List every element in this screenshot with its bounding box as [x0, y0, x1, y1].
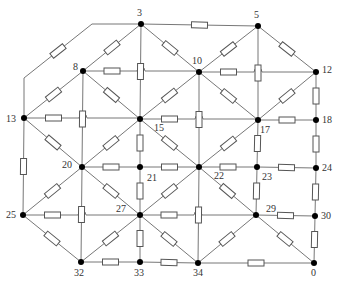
resistor-15-20 [103, 136, 119, 151]
resistor-27-29 [161, 212, 177, 218]
node-34 [195, 260, 201, 266]
node-label-34: 34 [193, 267, 203, 278]
resistor-13-15 [46, 115, 62, 121]
resistor-30-0 [311, 231, 317, 247]
node-label-33: 33 [134, 267, 144, 278]
resistor-21-27 [137, 183, 143, 199]
node-33 [137, 259, 143, 265]
resistor-24-30 [312, 184, 318, 200]
resistor-18-24 [313, 136, 319, 152]
node-20 [79, 164, 85, 170]
node-label-30: 30 [321, 210, 331, 221]
resistor-3-5 [191, 22, 207, 28]
resistor-22-29 [219, 184, 235, 199]
resistor-25-27 [45, 212, 61, 218]
node-0 [311, 260, 317, 266]
resistor-13-25 [20, 158, 26, 174]
resistors-layer [20, 22, 319, 266]
resistor-8-20 [79, 111, 85, 127]
resistor-34-0 [248, 260, 264, 266]
resistor-8-15 [103, 88, 119, 103]
node-30 [312, 213, 318, 219]
node-label-10: 10 [192, 55, 202, 66]
resistor-3-10 [162, 41, 178, 56]
node-22 [196, 164, 202, 170]
resistor-3-15 [137, 63, 143, 79]
resistor-5-12 [279, 42, 295, 57]
resistor-17-18 [279, 117, 295, 123]
node-label-5: 5 [254, 9, 259, 20]
node-label-29: 29 [266, 203, 276, 214]
resistor-13-20 [45, 135, 61, 150]
node-32 [78, 259, 84, 265]
resistor-29-34 [219, 232, 235, 247]
node-24 [313, 165, 319, 171]
resistor-10-15 [161, 88, 177, 103]
node-label-13: 13 [6, 113, 16, 124]
node-25 [20, 212, 26, 218]
node-21 [137, 164, 143, 170]
node-8 [80, 68, 86, 74]
node-label-22: 22 [214, 170, 224, 181]
resistor-20-27 [103, 184, 119, 199]
node-23 [254, 164, 260, 170]
node-15 [137, 116, 143, 122]
resistor-15-21 [137, 135, 143, 151]
resistor-10-22 [196, 112, 202, 128]
resistor-12-17 [279, 89, 295, 104]
resistor-5-10 [220, 42, 236, 57]
node-label-15: 15 [154, 122, 164, 133]
resistor-27-34 [161, 232, 177, 247]
node-label-0: 0 [311, 267, 316, 278]
node-label-25: 25 [6, 209, 16, 220]
resistor-27-32 [102, 231, 118, 246]
node-label-32: 32 [74, 267, 84, 278]
node-3 [138, 21, 144, 27]
resistor-5-17 [255, 65, 261, 81]
resistor-10-17 [220, 89, 236, 104]
resistor-3-8 [104, 40, 120, 55]
resistor-12-18 [313, 88, 319, 104]
resistor-25-32 [44, 231, 60, 246]
resistor-17-23 [254, 135, 260, 151]
node-27 [137, 212, 143, 218]
resistor-22-34 [195, 207, 201, 223]
node-label-3: 3 [137, 7, 142, 18]
resistor-29-30 [277, 212, 293, 218]
resistor-8-10 [104, 68, 120, 74]
node-29 [253, 212, 259, 218]
resistor-15-22 [161, 136, 177, 151]
resistor-23-24 [278, 164, 294, 170]
resistor-20-21 [103, 164, 119, 170]
resistor-17-22 [220, 136, 236, 151]
resistor-32-33 [103, 259, 119, 265]
resistor-network-diagram: 3581012131517182021222324252729303233340 [0, 0, 341, 290]
node-5 [255, 23, 261, 29]
node-label-21: 21 [147, 172, 157, 183]
resistor-27-33 [137, 231, 143, 247]
resistor-20-25 [44, 184, 60, 199]
node-label-12: 12 [322, 64, 332, 75]
node-label-23: 23 [262, 171, 272, 182]
resistor-8-13 [45, 87, 61, 102]
resistor-21-22 [162, 164, 178, 170]
node-label-8: 8 [73, 61, 78, 72]
resistor-33-34 [161, 259, 177, 265]
resistor-29-0 [277, 232, 293, 247]
node-17 [255, 117, 261, 123]
node-18 [313, 117, 319, 123]
node-label-27: 27 [116, 203, 126, 214]
node-label-17: 17 [260, 124, 270, 135]
node-10 [196, 69, 202, 75]
resistor-13-3-outer [50, 44, 66, 59]
node-label-24: 24 [322, 162, 332, 173]
node-13 [21, 115, 27, 121]
node-label-20: 20 [62, 159, 72, 170]
diagram-svg: 3581012131517182021222324252729303233340 [0, 0, 341, 290]
resistor-10-12 [221, 69, 237, 75]
resistor-20-32 [78, 206, 84, 222]
node-12 [313, 69, 319, 75]
resistor-22-27 [161, 184, 177, 199]
resistor-23-29 [253, 183, 259, 199]
node-label-18: 18 [322, 114, 332, 125]
